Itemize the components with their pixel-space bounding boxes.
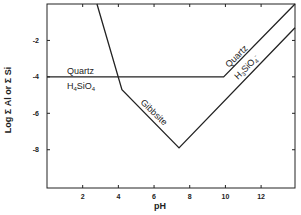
- ticks: 24681012-2-4-6-8: [33, 4, 295, 200]
- y-tick-label: -2: [33, 37, 39, 44]
- y-axis-label: Log Σ Al or Σ Si: [3, 67, 13, 133]
- x-axis-label: pH: [154, 201, 166, 211]
- x-tick-label: 12: [257, 193, 265, 200]
- y-tick-label: -4: [33, 73, 39, 80]
- x-tick-label: 6: [152, 193, 156, 200]
- x-tick-label: 2: [81, 193, 85, 200]
- y-tick-label: -6: [33, 110, 39, 117]
- x-tick-label: 8: [188, 193, 192, 200]
- x-tick-label: 10: [222, 193, 230, 200]
- quartz-label-left: Quartz: [67, 66, 95, 76]
- h4sio4-label: H4SiO4: [67, 81, 96, 92]
- chart: 24681012-2-4-6-8 pH Log Σ Al or Σ Si Qua…: [0, 0, 301, 215]
- x-tick-label: 4: [116, 193, 120, 200]
- axes: [47, 4, 295, 188]
- y-tick-label: -8: [33, 146, 39, 153]
- gibbsite-solubility-line: [97, 4, 295, 148]
- plot-frame: [47, 4, 295, 188]
